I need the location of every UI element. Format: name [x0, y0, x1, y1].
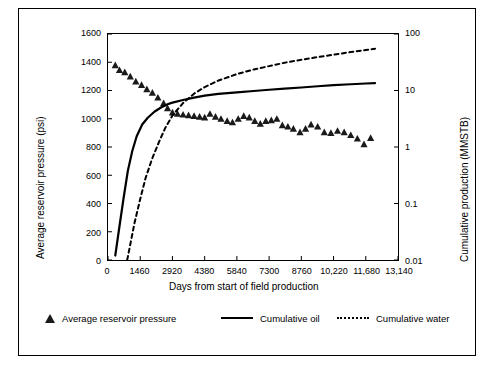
data-point-marker — [360, 141, 367, 148]
y-left-tick-label: 1600 — [59, 28, 101, 38]
data-point-marker — [246, 114, 253, 121]
series-line-cumulative-oil — [115, 83, 375, 255]
data-point-marker — [149, 89, 156, 96]
data-point-marker — [229, 119, 236, 126]
data-point-marker — [268, 117, 275, 124]
data-point-marker — [354, 135, 361, 142]
data-point-marker — [179, 111, 186, 118]
y-left-tick-label: 400 — [59, 199, 101, 209]
legend-label: Cumulative water — [376, 313, 449, 324]
y-right-tick-label: 10 — [405, 85, 415, 95]
chart-figure: Average reservoir pressure (psi) Cumulat… — [18, 8, 476, 356]
data-point-marker — [290, 125, 297, 132]
data-point-marker — [307, 121, 314, 128]
legend-entry-cumulative-water: Cumulative water — [337, 309, 449, 327]
x-tick-label: 13,140 — [379, 266, 419, 276]
data-point-marker — [273, 115, 280, 122]
y-axis-left-title: Average reservoir pressure (psi) — [35, 116, 46, 259]
data-point-marker — [279, 122, 286, 129]
x-axis-title: Days from start of field production — [169, 281, 319, 292]
data-point-marker — [302, 125, 309, 132]
series-line-cumulative-water — [127, 49, 375, 260]
y-left-tick-label: 600 — [59, 171, 101, 181]
y-right-tick-label: 0.1 — [405, 199, 418, 209]
data-point-marker — [217, 115, 224, 122]
data-point-marker — [138, 81, 145, 88]
data-point-marker — [314, 123, 321, 130]
data-point-marker — [284, 123, 291, 130]
solid-line-icon — [221, 317, 253, 319]
data-point-marker — [367, 134, 374, 141]
data-point-marker — [112, 61, 119, 68]
chart-canvas — [108, 34, 398, 260]
data-point-marker — [251, 117, 258, 124]
legend-entry-cumulative-oil: Cumulative oil — [221, 309, 320, 327]
data-point-marker — [334, 127, 341, 134]
data-point-marker — [296, 129, 303, 136]
data-point-marker — [127, 73, 134, 80]
legend-label: Average reservoir pressure — [62, 313, 176, 324]
data-point-marker — [347, 131, 354, 138]
y-axis-right-title: Cumulative production (MMSTB) — [459, 117, 470, 262]
y-left-tick-label: 800 — [59, 142, 101, 152]
y-left-tick-label: 1000 — [59, 114, 101, 124]
plot-area — [107, 33, 399, 261]
data-point-marker — [224, 117, 231, 124]
y-right-tick-label: 1 — [405, 142, 410, 152]
data-point-marker — [206, 110, 213, 117]
chart-legend: Average reservoir pressure Cumulative oi… — [41, 309, 455, 329]
data-point-marker — [327, 129, 334, 136]
y-right-tick-label: 100 — [405, 28, 420, 38]
y-left-tick-label: 0 — [59, 256, 101, 266]
data-point-marker — [321, 129, 328, 136]
y-left-tick-label: 1200 — [59, 85, 101, 95]
data-point-marker — [185, 112, 192, 119]
y-right-tick-label: 0.01 — [405, 256, 423, 266]
series-markers-average-reservoir-pressure — [112, 61, 375, 147]
legend-label: Cumulative oil — [260, 313, 320, 324]
data-point-marker — [201, 114, 208, 121]
legend-entry-avg-pressure: Average reservoir pressure — [45, 309, 176, 327]
dashed-line-icon — [337, 317, 369, 319]
data-point-marker — [341, 129, 348, 136]
data-point-marker — [240, 112, 247, 119]
y-left-tick-label: 1400 — [59, 57, 101, 67]
data-point-marker — [190, 112, 197, 119]
triangle-marker-icon — [45, 314, 55, 323]
y-left-tick-label: 200 — [59, 228, 101, 238]
